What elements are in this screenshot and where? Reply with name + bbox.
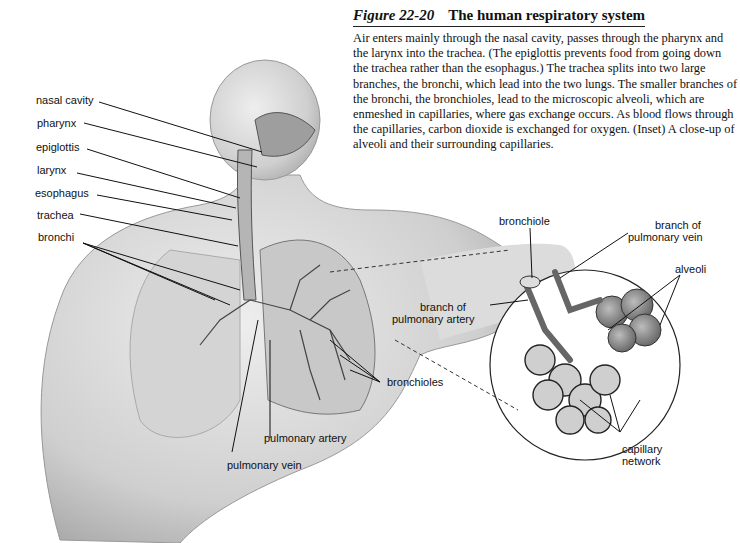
label-pulmonary-artery: pulmonary artery xyxy=(264,432,347,444)
label-pulmonary-vein: pulmonary vein xyxy=(227,459,302,471)
inset-label-bronchiole: bronchiole xyxy=(499,215,550,227)
bronchiole-opening xyxy=(520,276,540,288)
inset-label-capillary-network-1: capillary xyxy=(622,443,662,455)
figure-number: Figure 22-20 xyxy=(353,7,434,23)
inset-label-branch-pulmonary-vein-2: pulmonary vein xyxy=(628,231,703,243)
figure-title-text: The human respiratory system xyxy=(448,7,645,23)
label-bronchi: bronchi xyxy=(38,231,74,243)
label-epiglottis: epiglottis xyxy=(36,141,79,153)
figure-title: Figure 22-20The human respiratory system xyxy=(353,7,645,27)
figure-caption-text: Air enters mainly through the nasal cavi… xyxy=(353,31,738,153)
right-lung xyxy=(130,250,240,437)
inset-label-alveoli: alveoli xyxy=(675,263,706,275)
label-bronchioles: bronchioles xyxy=(387,376,443,388)
label-nasal-cavity: nasal cavity xyxy=(36,94,93,106)
label-esophagus: esophagus xyxy=(35,187,89,199)
label-larynx: larynx xyxy=(37,164,66,176)
label-trachea: trachea xyxy=(37,209,74,221)
inset-label-branch-pulmonary-artery-1: branch of xyxy=(420,301,466,313)
inset-label-branch-pulmonary-artery-2: pulmonary artery xyxy=(392,313,475,325)
inset-label-capillary-network-2: network xyxy=(622,455,661,467)
figure-caption: Figure 22-20The human respiratory system… xyxy=(353,6,738,153)
label-pharynx: pharynx xyxy=(37,117,76,129)
inset-label-branch-pulmonary-vein-1: branch of xyxy=(655,219,701,231)
